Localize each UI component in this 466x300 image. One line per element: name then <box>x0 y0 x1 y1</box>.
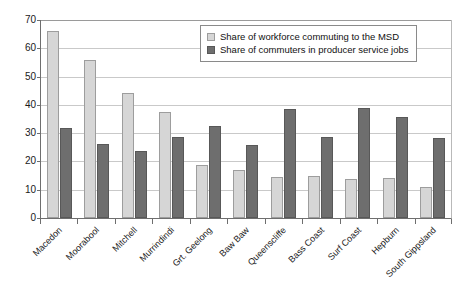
x-axis-tick-mark <box>265 219 266 224</box>
bar <box>209 126 221 218</box>
bar-group <box>414 20 451 218</box>
bar <box>321 137 333 218</box>
bar <box>97 144 109 218</box>
bar <box>84 60 96 218</box>
x-axis-tick-mark <box>302 219 303 224</box>
x-axis-label: Macedon <box>40 225 77 299</box>
x-axis-tick-mark <box>451 219 452 224</box>
bar <box>433 138 445 218</box>
legend-item-label: Share of workforce commuting to the MSD <box>220 32 399 42</box>
x-axis-label: Mitchell <box>115 225 152 299</box>
bar <box>358 108 370 218</box>
x-axis-tick-mark <box>40 219 41 224</box>
bar-group <box>153 20 190 218</box>
x-axis-label: Baw Baw <box>227 225 264 299</box>
x-axis-tick-mark <box>115 219 116 224</box>
bar <box>420 187 432 218</box>
x-axis-tick-mark <box>377 219 378 224</box>
bar <box>47 31 59 218</box>
legend: Share of workforce commuting to the MSD … <box>200 25 417 62</box>
bar-group <box>78 20 115 218</box>
x-axis-tick-mark <box>152 219 153 224</box>
x-axis-label: Grt. Geelong <box>190 225 227 299</box>
bar <box>135 151 147 218</box>
x-axis-tick-mark <box>190 219 191 224</box>
bar <box>271 177 283 218</box>
x-axis-tick-mark <box>340 219 341 224</box>
bar <box>284 109 296 218</box>
legend-item: Share of workforce commuting to the MSD <box>207 30 409 43</box>
x-axis-tick-mark <box>415 219 416 224</box>
legend-swatch-icon <box>207 33 215 41</box>
x-axis-label-text: Mitchell <box>110 225 139 254</box>
bar-group <box>116 20 153 218</box>
x-axis-tick-mark <box>227 219 228 224</box>
x-axis-label: Queenscliffe <box>265 225 302 299</box>
legend-swatch-icon <box>207 46 215 54</box>
legend-item: Share of commuters in producer service j… <box>207 43 409 56</box>
bar <box>172 137 184 218</box>
bar <box>159 112 171 218</box>
bar-chart: 010203040506070 MacedonMooraboolMitchell… <box>0 0 466 300</box>
bar-group <box>41 20 78 218</box>
bar <box>246 145 258 218</box>
x-axis-labels: MacedonMooraboolMitchellMurrindindiGrt. … <box>40 225 452 299</box>
x-axis-label-text: Macedon <box>31 225 64 258</box>
bar <box>60 128 72 219</box>
legend-item-label: Share of commuters in producer service j… <box>220 45 409 55</box>
bar <box>396 117 408 218</box>
x-axis-label: South Gippsland <box>415 225 452 299</box>
x-axis-label: Bass Coast <box>302 225 339 299</box>
x-axis-label: Surf Coast <box>340 225 377 299</box>
x-axis-label: Moorabool <box>77 225 114 299</box>
x-axis-tick-mark <box>77 219 78 224</box>
